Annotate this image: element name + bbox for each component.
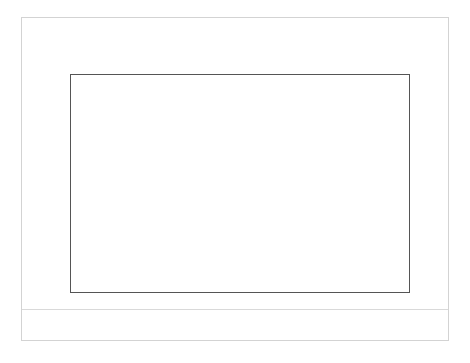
y-axis-title	[21, 74, 35, 291]
plot-area	[70, 74, 410, 293]
chart-figure	[21, 17, 449, 341]
footer-divider	[22, 309, 448, 310]
